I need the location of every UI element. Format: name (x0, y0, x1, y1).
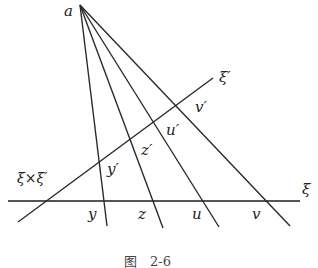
label-z: z (137, 205, 146, 223)
projective-diagram: a ξ′ ξ ξ×ξ′ v′ u′ z′ y′ y z u v 图 2-6 (0, 0, 318, 268)
figure-caption: 图 2-6 (124, 254, 171, 268)
ray-v (80, 5, 290, 226)
label-v: v (252, 205, 261, 223)
label-y: y (87, 205, 97, 223)
label-u-prime: u′ (166, 121, 180, 139)
label-y-prime: y′ (106, 160, 119, 178)
label-apex-a: a (64, 2, 73, 20)
label-z-prime: z′ (140, 141, 153, 159)
ray-y (80, 5, 107, 226)
label-v-prime: v′ (195, 98, 207, 116)
label-xi-prime: ξ′ (219, 68, 231, 86)
label-xi: ξ (302, 180, 311, 198)
label-u: u (192, 205, 202, 223)
label-intersection: ξ×ξ′ (17, 170, 48, 186)
